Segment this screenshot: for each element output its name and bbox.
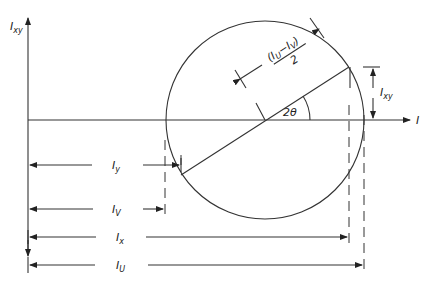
radius-label: (IU−IV) 2 (265, 32, 314, 77)
svg-text:2: 2 (288, 53, 301, 68)
iy-label: Iy (112, 159, 120, 174)
iu-label: IU (116, 259, 125, 274)
horizontal-axis-label: I (416, 114, 419, 127)
diameter-line (181, 67, 349, 175)
iv-label: IV (112, 203, 121, 218)
mohr-circle-diagram: Ixy I (IU−IV) 2 2θ Ixy Iy (0, 0, 427, 283)
iu-dimension (28, 257, 362, 273)
ixy-label: Ixy (380, 86, 393, 101)
ix-label: Ix (116, 231, 124, 246)
ixy-dimension (350, 67, 380, 118)
vertical-axis-label: Ixy (10, 20, 23, 35)
center-tick (256, 103, 265, 120)
angle-label: 2θ (283, 106, 297, 119)
ix-dimension (28, 230, 347, 244)
angle-arc (303, 96, 310, 120)
